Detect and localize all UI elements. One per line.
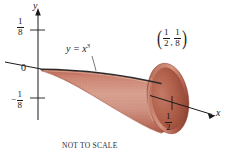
figure-tornelli-horn: y x 1 8 0 − 1 8 y = x3 ( 1 2 , 1 8 ) [0,0,230,161]
point-y-fraction: 1 8 [174,28,181,48]
point-coordinate-label: ( 1 2 , 1 8 ) [156,28,188,48]
curve-equation-text: y = x [66,43,87,54]
open-paren: ( [157,29,162,47]
fraction-denominator: 2 [165,123,172,132]
fraction-one-half: 1 2 [165,112,172,132]
fraction-numerator: 1 [165,112,172,121]
figure-caption-note: NOT TO SCALE [62,142,118,150]
figure-canvas [0,0,230,161]
curve-label-leader-line [92,56,96,71]
fraction-denominator: 8 [17,101,24,110]
y-tick-label-negative-one-eighth: − 1 8 [11,90,23,110]
x-axis-label: x [216,108,220,118]
y-tick-label-positive-one-eighth: 1 8 [17,17,24,37]
fraction-one-eighth: 1 8 [17,90,24,110]
curve-equation-exponent: 3 [87,42,90,49]
minus-sign: − [11,94,16,104]
fraction-denominator: 8 [174,39,181,48]
fraction-numerator: 1 [163,28,170,37]
x-tick-label-one-half: 1 2 [165,112,172,132]
fraction-numerator: 1 [17,17,24,26]
fraction-numerator: 1 [174,28,181,37]
y-axis-label: y [33,1,37,11]
fraction-denominator: 8 [17,28,24,37]
fraction-numerator: 1 [17,90,24,99]
curve-equation-label: y = x3 [66,44,90,54]
origin-label: 0 [21,63,26,73]
close-paren: ) [182,29,187,47]
fraction-one-eighth: 1 8 [17,17,24,37]
